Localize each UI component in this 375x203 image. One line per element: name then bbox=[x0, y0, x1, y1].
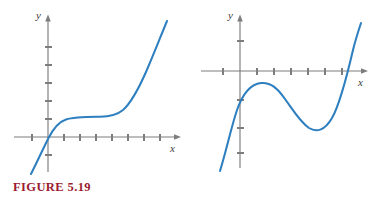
left-plot-x-axis-arrowhead bbox=[174, 134, 181, 140]
right-plot-x-axis-arrowhead bbox=[361, 68, 368, 74]
left-plot-panel: y x bbox=[0, 0, 190, 180]
figure-container: y x bbox=[0, 0, 375, 203]
left-plot-curve bbox=[31, 21, 167, 174]
left-plot-x-axis-label: x bbox=[169, 142, 175, 154]
right-plot-y-axis-arrowhead bbox=[237, 15, 243, 22]
right-plot-curve bbox=[220, 23, 361, 171]
right-plot-panel: y x bbox=[185, 0, 375, 180]
left-plot-svg: y x bbox=[0, 0, 190, 180]
right-plot-svg: y x bbox=[185, 0, 375, 180]
left-plot-y-axis-arrowhead bbox=[45, 15, 51, 22]
right-plot-x-axis-label: x bbox=[357, 76, 363, 88]
figure-caption: FIGURE 5.19 bbox=[13, 180, 91, 195]
right-plot-y-axis-label: y bbox=[227, 9, 233, 21]
left-plot-y-axis-label: y bbox=[35, 9, 41, 21]
